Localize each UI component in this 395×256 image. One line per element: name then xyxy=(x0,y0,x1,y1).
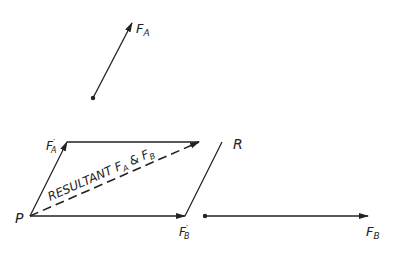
point-p-label: P xyxy=(15,210,24,226)
fb-origin-dot xyxy=(203,214,207,218)
fb-prime-label: F′B xyxy=(179,224,189,241)
force-fa-vector: FA xyxy=(91,21,150,100)
force-fb-vector: FB xyxy=(203,214,380,241)
resultant-label: RESULTANT FA & FB xyxy=(46,145,157,206)
fa-origin-dot xyxy=(91,96,95,100)
fa-prime-label: F′A xyxy=(46,138,56,155)
point-r-label: R xyxy=(233,136,243,152)
parallelogram xyxy=(30,142,222,216)
fa-prime-arrow xyxy=(30,142,67,216)
force-diagram: FA FB F′A F′B P R RESULTANT FA & FB xyxy=(0,0,395,256)
fa-label: FA xyxy=(136,21,150,38)
fa-arrow xyxy=(93,23,132,98)
fb-label: FB xyxy=(366,224,380,241)
right-side xyxy=(185,142,222,216)
